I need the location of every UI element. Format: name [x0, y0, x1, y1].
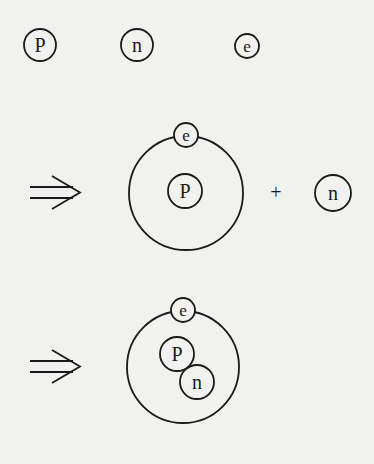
plus-sign: +	[270, 181, 281, 203]
proton-label: P	[34, 34, 45, 56]
nucleus-neutron-label: n	[192, 371, 202, 393]
electron-label: e	[243, 37, 251, 56]
orbiting-electron-label: e	[182, 126, 190, 145]
orbiting-electron-label: e	[179, 301, 187, 320]
particle-diagram: P n e P e + n	[0, 0, 374, 464]
neutron-label: n	[132, 34, 142, 56]
nucleus-proton-label: P	[171, 343, 182, 365]
free-neutron-label: n	[328, 182, 338, 204]
nucleus-proton-label: P	[179, 180, 190, 202]
